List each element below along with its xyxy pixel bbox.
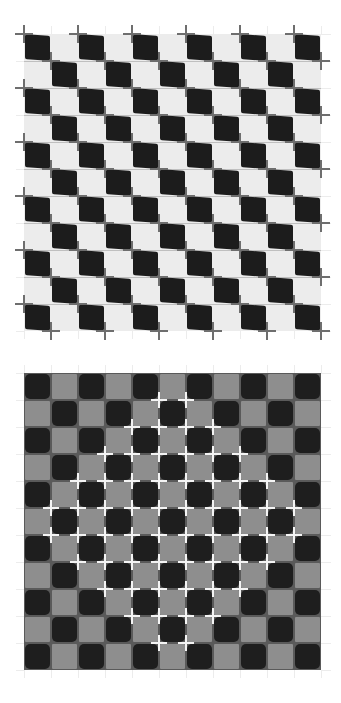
- white-cross-icon: [104, 500, 106, 516]
- gray-square: [214, 482, 239, 507]
- white-cross-icon: [212, 581, 214, 597]
- guide-line: [321, 373, 331, 374]
- dark-square: [160, 401, 185, 426]
- white-cross-icon: [158, 608, 160, 624]
- guide-line: [51, 670, 52, 678]
- dark-square: [106, 223, 131, 250]
- gray-square: [160, 644, 185, 669]
- guide-line: [24, 670, 25, 678]
- dark-square: [133, 196, 158, 223]
- white-cross-icon: [158, 581, 160, 597]
- gray-square: [106, 482, 131, 507]
- gray-cross-icon: [77, 25, 79, 43]
- dark-square: [268, 455, 293, 480]
- guide-line: [267, 670, 268, 678]
- guide-line: [213, 26, 214, 34]
- white-cross-icon: [104, 554, 106, 570]
- dark-square: [160, 617, 185, 642]
- guide-line: [16, 616, 24, 617]
- white-cross-icon: [185, 392, 187, 408]
- dark-square: [106, 509, 131, 534]
- white-cross-icon: [50, 500, 52, 516]
- white-cross-icon: [104, 473, 106, 489]
- guide-line: [321, 454, 331, 455]
- dark-square: [160, 563, 185, 588]
- dark-square: [79, 34, 104, 61]
- guide-line: [213, 365, 214, 373]
- guide-line: [321, 589, 331, 590]
- dark-square: [187, 482, 212, 507]
- dark-square: [187, 142, 212, 169]
- dark-square: [241, 644, 266, 669]
- grid-line: [24, 250, 321, 251]
- dark-square: [295, 304, 320, 331]
- dark-square: [79, 590, 104, 615]
- gray-cross-icon: [185, 25, 187, 43]
- white-cross-icon: [158, 635, 160, 651]
- dark-square: [241, 590, 266, 615]
- gray-cross-icon: [23, 25, 25, 43]
- gray-cross-icon: [239, 25, 241, 43]
- dark-square: [133, 482, 158, 507]
- guide-line: [16, 331, 24, 332]
- guide-line: [321, 34, 331, 35]
- grid-line: [24, 223, 321, 224]
- guide-line: [132, 365, 133, 373]
- guide-line: [16, 61, 24, 62]
- guide-line: [24, 365, 25, 373]
- dark-square: [241, 196, 266, 223]
- gray-cross-icon: [158, 322, 160, 340]
- guide-line: [321, 196, 331, 197]
- guide-line: [294, 331, 295, 339]
- dark-square: [160, 509, 185, 534]
- gray-square: [52, 590, 77, 615]
- dark-square: [133, 250, 158, 277]
- white-cross-icon: [212, 473, 214, 489]
- guide-line: [105, 670, 106, 678]
- dark-square: [241, 88, 266, 115]
- dark-square: [106, 563, 131, 588]
- gray-square: [133, 563, 158, 588]
- white-cross-icon: [239, 473, 241, 489]
- gray-square: [187, 401, 212, 426]
- dark-square: [25, 644, 50, 669]
- gray-square: [106, 644, 131, 669]
- dark-square: [268, 223, 293, 250]
- gray-cross-icon: [266, 322, 268, 340]
- gray-square: [133, 617, 158, 642]
- dark-square: [52, 223, 77, 250]
- guide-line: [186, 365, 187, 373]
- grid-line: [24, 61, 321, 62]
- guide-line: [16, 562, 24, 563]
- dark-square: [295, 482, 320, 507]
- white-cross-icon: [212, 500, 214, 516]
- white-cross-icon: [239, 446, 241, 462]
- white-cross-icon: [185, 608, 187, 624]
- dark-square: [52, 401, 77, 426]
- dark-square: [214, 61, 239, 88]
- gray-square: [268, 374, 293, 399]
- white-cross-icon: [185, 446, 187, 462]
- white-cross-icon: [131, 473, 133, 489]
- gray-square: [214, 374, 239, 399]
- dark-square: [79, 428, 104, 453]
- guide-line: [16, 427, 24, 428]
- gray-square: [295, 455, 320, 480]
- white-cross-icon: [239, 500, 241, 516]
- gray-square: [214, 536, 239, 561]
- dark-square: [79, 374, 104, 399]
- dark-square: [79, 644, 104, 669]
- dark-square: [160, 223, 185, 250]
- grid-line: [24, 196, 321, 197]
- dark-square: [214, 509, 239, 534]
- guide-line: [132, 331, 133, 339]
- guide-line: [321, 304, 331, 305]
- white-cross-icon: [212, 527, 214, 543]
- dark-square: [133, 34, 158, 61]
- dark-square: [187, 644, 212, 669]
- dark-square: [79, 250, 104, 277]
- dark-square: [52, 277, 77, 304]
- white-cross-icon: [131, 446, 133, 462]
- guide-line: [267, 365, 268, 373]
- dark-square: [52, 169, 77, 196]
